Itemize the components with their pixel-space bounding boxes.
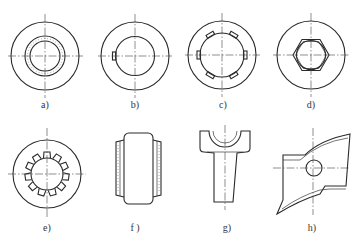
panel-e-label: e) [32, 222, 62, 233]
technical-drawing [0, 0, 357, 242]
panel-d-drawing [273, 13, 349, 97]
panel-f-drawing [116, 133, 161, 204]
panel-g-drawing [200, 125, 250, 210]
panel-h-drawing [273, 128, 350, 215]
panel-e-drawing [8, 128, 86, 218]
panel-a-label: a) [30, 99, 60, 110]
panel-h-label: h) [297, 222, 327, 233]
panel-a-drawing [8, 14, 83, 98]
panel-c-label: c) [208, 99, 238, 110]
panel-g-label: g) [212, 222, 242, 233]
panel-b-label: b) [120, 99, 150, 110]
panel-d-label: d) [296, 99, 326, 110]
panel-b-drawing [98, 14, 172, 98]
panel-c-drawing [185, 13, 260, 97]
panel-f-label: f ) [120, 222, 150, 233]
